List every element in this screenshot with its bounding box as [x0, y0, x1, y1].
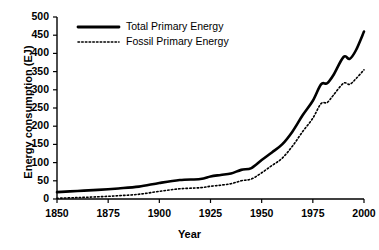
x-axis-tick-label: 1850 — [37, 207, 77, 219]
y-axis-tick-label: 0 — [19, 192, 49, 204]
y-axis-title: Energy consumption (EJ) — [22, 32, 34, 192]
legend-swatches — [78, 27, 119, 42]
x-axis-tick-label: 2000 — [344, 207, 379, 219]
y-axis-tick-label: 500 — [19, 10, 49, 22]
series-line-total-primary-energy — [57, 32, 364, 193]
x-axis-tick-label: 1950 — [242, 207, 282, 219]
x-axis-tick-label: 1925 — [191, 207, 231, 219]
legend-label-total-primary-energy: Total Primary Energy — [126, 20, 223, 32]
energy-consumption-line-chart: 050100150200250300350400450500 185018751… — [0, 0, 379, 250]
x-axis-tick-label: 1900 — [139, 207, 179, 219]
legend-label-fossil-primary-energy: Fossil Primary Energy — [126, 35, 229, 47]
x-axis-tick-label: 1875 — [88, 207, 128, 219]
x-axis-title: Year — [0, 228, 379, 240]
x-axis-tick-label: 1975 — [293, 207, 333, 219]
data-series-layer — [57, 32, 364, 199]
